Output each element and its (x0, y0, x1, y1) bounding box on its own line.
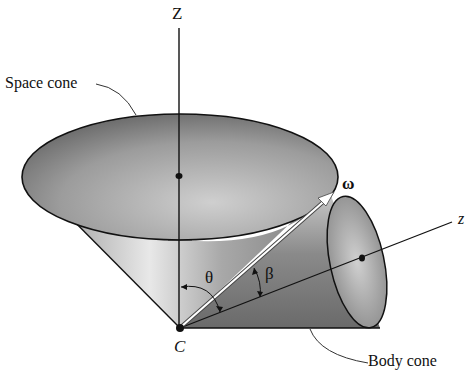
point-C-dot (176, 324, 184, 332)
body-cone-leader (310, 329, 368, 363)
point-C-label: C (174, 337, 185, 357)
space-cone-label: Space cone (5, 74, 77, 92)
z-axis-label: z (458, 210, 464, 228)
omega-label: ω (342, 174, 354, 194)
theta-label: θ (205, 268, 213, 288)
beta-label: β (265, 264, 274, 284)
cones-figure (0, 0, 470, 389)
space-cone-leader (96, 84, 136, 115)
Z-axis-label: Z (172, 4, 182, 24)
diagram-canvas: Z Space cone ω z θ β C Body cone (0, 0, 470, 389)
body-cone-label: Body cone (368, 352, 437, 370)
